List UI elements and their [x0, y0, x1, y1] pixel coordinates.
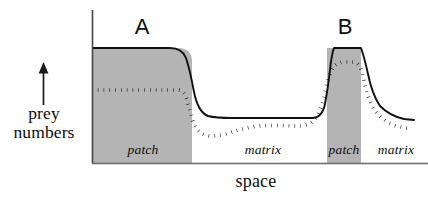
zone-label-matrix-a: matrix [228, 143, 298, 157]
x-axis-label: space [196, 172, 316, 190]
figure-root: prey numbers space A B patch matrix patc… [0, 0, 428, 206]
zone-label-patch-a: patch [108, 143, 178, 157]
y-axis-label-line-2: numbers [0, 123, 88, 142]
y-axis-label-line-1: prey [0, 104, 88, 123]
panel-letter-a: A [126, 16, 158, 38]
zone-label-patch-b: patch [318, 143, 370, 157]
prey-numbers-up-arrow-icon [39, 62, 49, 105]
panel-letter-b: B [329, 16, 361, 38]
y-axis-label: prey numbers [0, 104, 88, 142]
zone-label-matrix-b: matrix [368, 143, 424, 157]
